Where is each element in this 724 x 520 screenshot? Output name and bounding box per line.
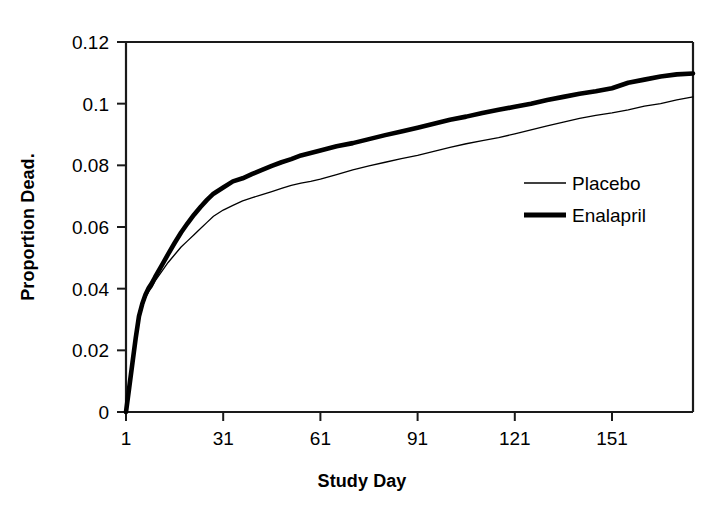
x-tick-label: 121 [499,428,531,449]
x-tick-label: 61 [310,428,331,449]
x-axis-title: Study Day [318,471,407,491]
y-tick-label: 0.12 [72,32,109,53]
x-tick-label: 151 [596,428,628,449]
y-tick-label: 0.04 [72,279,109,300]
x-tick-label: 1 [121,428,132,449]
legend-label-enalapril: Enalapril [572,205,646,226]
x-tick-label: 31 [213,428,234,449]
survival-curve-chart: 00.020.040.060.080.10.12 1316191121151 S… [0,0,724,520]
legend-label-placebo: Placebo [572,173,641,194]
y-axis-title: Proportion Dead. [18,153,38,301]
y-tick-label: 0 [98,402,109,423]
y-tick-label: 0.1 [83,94,109,115]
x-tick-label: 91 [407,428,428,449]
y-tick-label: 0.06 [72,217,109,238]
chart-figure: 00.020.040.060.080.10.12 1316191121151 S… [0,0,724,520]
y-tick-label: 0.08 [72,155,109,176]
y-tick-label: 0.02 [72,340,109,361]
